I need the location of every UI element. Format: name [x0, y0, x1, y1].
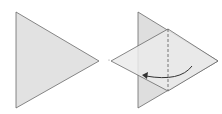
separator-dot [108, 59, 109, 60]
origami-diagram [0, 0, 222, 114]
step-2-fold [111, 12, 218, 108]
triangle-shape [16, 12, 99, 108]
folded-flap [111, 29, 218, 91]
step-1-triangle [16, 12, 99, 108]
